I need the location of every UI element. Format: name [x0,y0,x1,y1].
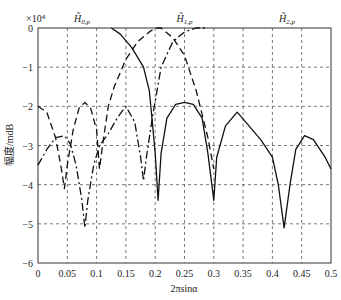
y-tick-label: −2 [22,101,33,112]
y-tick-labels: 0−1−2−3−4−5−6 [22,23,33,269]
x-tick-label: 0 [36,268,41,279]
x-tick-label: 0.4 [266,268,279,279]
grid-lines [38,28,331,263]
x-tick-labels: 00.050.10.150.20.250.30.350.40.450.5 [36,268,338,279]
x-tick-label: 0.15 [117,268,135,279]
y-tick-label: −1 [22,62,33,73]
x-tick-label: 0.45 [293,268,311,279]
y-tick-label: 0 [28,23,33,34]
legend: H̃0,pH̃1,pH̃2,p [73,12,296,26]
legend-label-2: H̃2,p [278,12,295,26]
x-tick-label: 0.2 [149,268,162,279]
x-tick-label: 0.35 [234,268,252,279]
y-tick-label: −4 [22,180,33,191]
x-tick-label: 0.05 [59,268,77,279]
y-tick-label: −6 [22,258,33,269]
y-axis-label: 幅度/mdB [3,124,15,167]
y-multiplier: ×10⁴ [26,13,46,24]
x-tick-label: 0.1 [90,268,103,279]
series-line-2 [38,28,208,228]
y-tick-label: −5 [22,219,33,230]
x-axis-label: 2πsinα [171,283,199,294]
series-line-1 [111,28,331,228]
legend-label-0: H̃0,p [73,12,90,26]
legend-label-1: H̃1,p [176,12,193,26]
x-tick-label: 0.5 [325,268,338,279]
y-tick-label: −3 [22,141,33,152]
chart: 00.050.10.150.20.250.30.350.40.450.5 0−1… [0,0,341,300]
x-tick-label: 0.25 [176,268,194,279]
x-tick-label: 0.3 [208,268,221,279]
